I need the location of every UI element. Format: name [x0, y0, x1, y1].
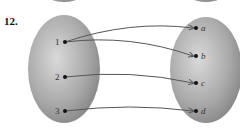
domain-point-1 — [63, 40, 67, 44]
previous-ellipse-right — [182, 0, 230, 2]
domain-label-3: 3 — [55, 106, 60, 116]
mapping-diagram: 12. 123 abcd — [0, 0, 240, 129]
problem-number: 12. — [4, 15, 18, 27]
domain-label-1: 1 — [55, 37, 60, 47]
codomain-point-c — [194, 81, 198, 85]
codomain-point-d — [194, 109, 198, 113]
codomain-label-a: a — [201, 23, 206, 33]
codomain-label-b: b — [201, 51, 206, 61]
domain-set-ellipse — [28, 15, 100, 123]
domain-label-2: 2 — [55, 72, 60, 82]
codomain-point-a — [194, 26, 198, 30]
domain-point-3 — [63, 109, 67, 113]
codomain-label-c: c — [201, 78, 205, 88]
codomain-point-b — [194, 54, 198, 58]
previous-ellipse-left — [40, 0, 88, 2]
codomain-label-d: d — [201, 106, 206, 116]
domain-point-2 — [63, 75, 67, 79]
